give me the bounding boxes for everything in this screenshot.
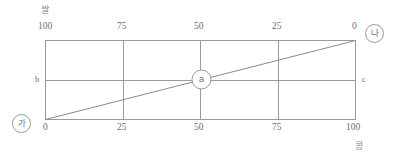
bottom-axis-tick-4: 100	[346, 123, 360, 133]
bottom-axis-title: 콩	[355, 142, 363, 151]
top-axis-tick-3: 25	[272, 22, 282, 32]
node-label-b: b	[35, 75, 39, 84]
bottom-axis-tick-3: 75	[272, 123, 282, 133]
bottom-axis-tick-0: 0	[43, 123, 48, 133]
node-label-a: a	[192, 70, 211, 89]
bottom-axis-tick-1: 25	[117, 123, 127, 133]
node-label-na: 나	[365, 24, 384, 43]
top-axis-title: 쌀	[41, 6, 49, 15]
diagram-canvas: 쌀 100 75 50 25 0 0 25 50 75 100 콩 b c 가 …	[0, 0, 399, 164]
node-label-ga: 가	[12, 114, 31, 133]
top-axis-tick-0: 100	[38, 22, 52, 32]
top-axis-tick-1: 75	[117, 22, 127, 32]
bottom-axis-tick-2: 50	[194, 123, 204, 133]
top-axis-tick-2: 50	[194, 22, 204, 32]
top-axis-tick-4: 0	[352, 22, 357, 32]
node-label-c: c	[362, 75, 366, 84]
